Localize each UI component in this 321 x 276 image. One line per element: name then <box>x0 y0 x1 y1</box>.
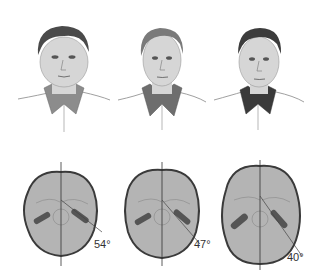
eye-left <box>52 55 59 59</box>
eye-left <box>152 56 158 60</box>
shoulder-line-left <box>214 92 242 100</box>
face-3-illustration <box>214 28 304 130</box>
skull-outline <box>24 172 97 256</box>
skull-2-diagram: 47° <box>125 162 211 266</box>
face-shape <box>40 37 88 87</box>
skull-outline <box>222 166 300 264</box>
eye-right <box>263 57 269 61</box>
shoulder-line-left <box>118 92 146 100</box>
shoulder-line-right <box>178 92 206 102</box>
skull-3-diagram: 40° <box>222 160 304 270</box>
angle-label: 54° <box>94 238 111 250</box>
skull-1-diagram: 54° <box>24 162 111 266</box>
eye-right <box>166 56 172 60</box>
eye-left <box>249 57 255 61</box>
face-1-illustration <box>18 26 110 132</box>
face-2-illustration <box>118 28 206 130</box>
shoulder-line-right <box>82 92 110 100</box>
angle-label: 47° <box>194 238 211 250</box>
facial-skull-angle-diagram: 54° 47° 40° <box>0 0 321 276</box>
angle-label: 40° <box>287 251 304 263</box>
shoulder-line-right <box>276 92 304 102</box>
eye-right <box>69 55 76 59</box>
